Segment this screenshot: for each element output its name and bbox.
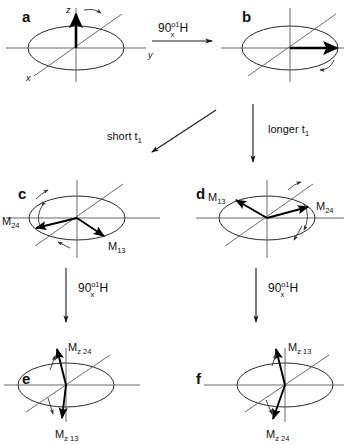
panel-e-label-Mz24-base: M bbox=[68, 341, 77, 353]
panel-b-letter: b bbox=[242, 8, 251, 25]
panel-a-y-label: y bbox=[147, 50, 153, 60]
panel-f-label-Mz13-base: M bbox=[288, 341, 297, 353]
panel-c-label-M24-sub: 24 bbox=[11, 221, 19, 230]
panel-c-label-M13-sub: 13 bbox=[117, 246, 125, 255]
panel-a-z-label: z bbox=[65, 5, 71, 15]
delay-short-sub: 1 bbox=[138, 136, 143, 145]
nmr-vector-diagram: a z y x b 90ox1H short t1 bbox=[0, 0, 345, 445]
panel-f-label-Mz13-sub: z 13 bbox=[297, 347, 311, 356]
panel-e-label-Mz24-sub: z 24 bbox=[77, 347, 91, 356]
pulse-a-b-nucleus: H bbox=[179, 21, 188, 35]
pulse-d-f-nucleus: H bbox=[289, 281, 298, 295]
pulse-d-f-axis: x bbox=[281, 290, 285, 299]
delay-longer-text: longer t bbox=[268, 123, 305, 135]
panel-c-label-M13-base: M bbox=[108, 240, 117, 252]
panel-c-label-M24-base: M bbox=[2, 215, 11, 227]
panel-e-label-Mz13-base: M bbox=[55, 428, 64, 440]
delay-short-text: short t bbox=[107, 130, 138, 142]
panel-f-label-Mz24-sub: z 24 bbox=[275, 434, 289, 443]
panel-d-label-M13-base: M bbox=[208, 191, 217, 203]
panel-d-label-M13-sub: 13 bbox=[217, 197, 225, 206]
panel-a-x-label: x bbox=[25, 73, 31, 83]
panel-f-label-Mz24-base: M bbox=[266, 428, 275, 440]
panel-c-letter: c bbox=[18, 185, 26, 202]
panel-e-label-Mz13-sub: z 13 bbox=[64, 434, 78, 443]
delay-longer-sub: 1 bbox=[305, 129, 310, 138]
panel-d-label-M24-base: M bbox=[316, 200, 325, 212]
panel-d-letter: d bbox=[196, 185, 205, 202]
pulse-a-b-axis: x bbox=[171, 30, 175, 39]
pulse-c-e-nucleus: H bbox=[99, 281, 108, 295]
panel-a-letter: a bbox=[22, 8, 31, 25]
panel-d-label-M24-sub: 24 bbox=[325, 206, 333, 215]
pulse-c-e-axis: x bbox=[91, 290, 95, 299]
